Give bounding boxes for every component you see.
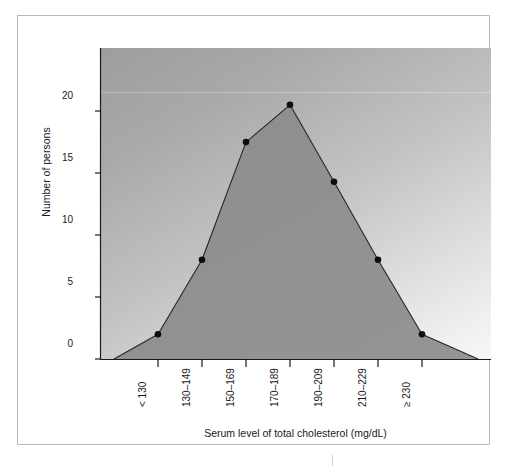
y-tick-label: 15 [49,152,73,163]
data-point-marker [287,102,294,109]
data-point-marker [155,331,162,338]
y-tick-label: 10 [49,214,73,225]
y-axis-title: Number of persons [40,82,52,262]
x-tick-label: 130–149 [181,368,192,407]
data-point-marker [331,178,338,185]
x-tick-label: ≥ 230 [401,382,412,407]
y-tick-label: 0 [49,338,73,349]
data-point-marker [243,139,250,146]
x-tick-label: < 130 [137,382,148,407]
x-tick-label: 150–169 [225,368,236,407]
data-point-marker [199,257,206,264]
scan-artifact [332,455,333,466]
area-fill [114,105,478,359]
frequency-polygon-chart [18,16,506,476]
x-tick-label: 170–189 [269,368,280,407]
y-tick-label: 5 [49,276,73,287]
data-point-marker [375,257,382,264]
figure-frame: 0 5 10 15 20 < 130 130–149 150–169 170–1… [17,15,490,445]
y-tick-label: 20 [49,90,73,101]
figure-root: 0 5 10 15 20 < 130 130–149 150–169 170–1… [0,0,506,476]
x-tick-label: 210–229 [357,368,368,407]
data-point-marker [419,331,426,338]
x-tick-label: 190–209 [313,368,324,407]
x-axis-title: Serum level of total cholesterol (mg/dL) [100,427,491,439]
